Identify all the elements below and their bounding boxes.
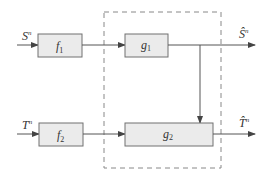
input-label-s: Sn: [22, 29, 32, 43]
input-label-t: Tn: [22, 118, 33, 132]
output-label-s-hat: Ŝn: [239, 27, 249, 41]
block-diagram: Sn Tn f1 f2 g1 g2 Ŝn T̂n: [0, 0, 271, 177]
output-label-t-hat: T̂n: [239, 116, 250, 130]
